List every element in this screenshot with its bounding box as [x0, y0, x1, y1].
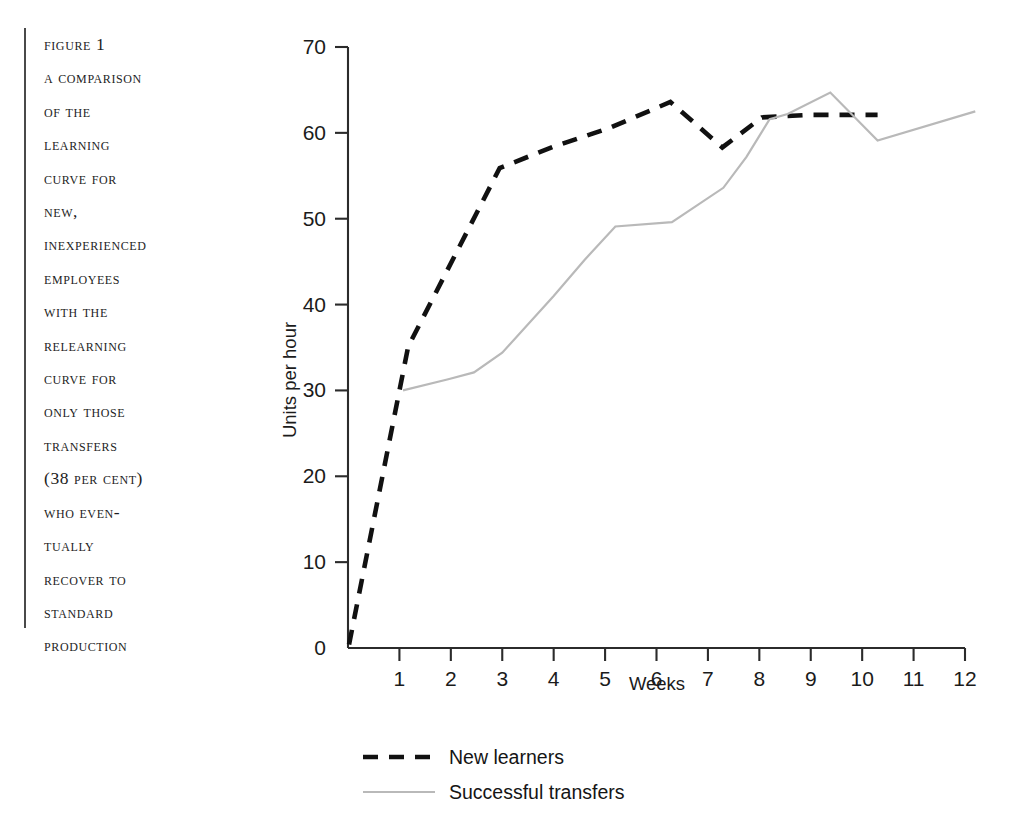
x-tick-label: 9 — [805, 667, 817, 690]
x-tick-label: 10 — [850, 667, 873, 690]
legend-label-2: Successful transfers — [449, 781, 625, 803]
y-axis-title: Units per hour — [279, 322, 300, 438]
x-tick-label: 5 — [599, 667, 611, 690]
data-series-group — [349, 93, 975, 645]
x-tick-label: 4 — [548, 667, 560, 690]
y-tick-label: 20 — [303, 464, 326, 487]
y-tick-label: 60 — [303, 121, 326, 144]
legend-label-1: New learners — [449, 746, 564, 768]
chart-legend: New learnersSuccessful transfers — [363, 746, 625, 803]
y-tick-label: 30 — [303, 378, 326, 401]
y-tick-label: 70 — [303, 35, 326, 58]
x-tick-label: 11 — [903, 667, 925, 690]
x-tick-label: 12 — [953, 667, 976, 690]
learning-curve-chart: 010203040506070 123456789101112 Units pe… — [0, 0, 1009, 830]
x-axis-title: Weeks — [629, 673, 685, 694]
y-tick-label: 10 — [303, 550, 326, 573]
x-tick-label: 1 — [394, 667, 406, 690]
y-tick-label: 0 — [314, 636, 326, 659]
x-tick-label: 7 — [702, 667, 714, 690]
x-tick-label: 3 — [496, 667, 508, 690]
x-tick-label: 8 — [753, 667, 765, 690]
figure-chart: 010203040506070 123456789101112 Units pe… — [0, 0, 1009, 830]
x-tick-label: 2 — [445, 667, 457, 690]
y-tick-label: 50 — [303, 207, 326, 230]
series-line-new-learners — [349, 102, 878, 645]
y-axis: 010203040506070 — [303, 35, 348, 659]
series-line-successful-transfers — [403, 93, 975, 391]
y-tick-label: 40 — [303, 293, 326, 316]
